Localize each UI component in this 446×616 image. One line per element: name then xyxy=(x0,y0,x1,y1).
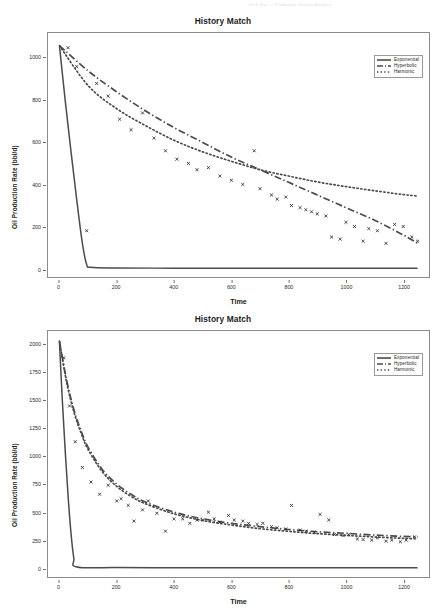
x-tick-label: 0 xyxy=(57,284,60,290)
y-tick-label: 1500 xyxy=(0,397,46,403)
y-tick-label: 1250 xyxy=(0,425,46,431)
x-tick-label: 600 xyxy=(227,284,236,290)
x-axis-label-2: Time xyxy=(47,597,430,606)
figure-1: History Match Oil Production Rate (bbl/d… xyxy=(0,14,446,310)
screenshot-page: Oil & Gas — Production Decline Analysis … xyxy=(0,0,446,616)
x-axis-label-1: Time xyxy=(47,297,430,306)
x-tick-label: 1000 xyxy=(341,284,353,290)
x-tick-label: 400 xyxy=(169,584,178,590)
axis-ticks-2: 0250500750100012501500175020000200400600… xyxy=(0,312,446,616)
y-tick-label: 0 xyxy=(0,566,46,572)
page-header-faint-text: Oil & Gas — Production Decline Analysis xyxy=(248,1,444,8)
y-tick-label: 1000 xyxy=(0,453,46,459)
x-tick-label: 600 xyxy=(227,584,236,590)
x-tick-label: 0 xyxy=(57,584,60,590)
y-tick-label: 1000 xyxy=(0,54,46,60)
x-tick-label: 200 xyxy=(112,284,121,290)
x-tick-label: 400 xyxy=(169,284,178,290)
x-tick-label: 800 xyxy=(284,584,293,590)
axis-ticks-1: 02004006008001000020040060080010001200 xyxy=(0,14,446,310)
y-tick-label: 200 xyxy=(0,224,46,230)
y-tick-label: 750 xyxy=(0,481,46,487)
y-tick-label: 0 xyxy=(0,267,46,273)
x-tick-label: 1000 xyxy=(341,584,353,590)
figure-2: History Match Oil Production Rate (bbl/d… xyxy=(0,312,446,616)
y-tick-label: 800 xyxy=(0,97,46,103)
x-tick-label: 800 xyxy=(284,284,293,290)
y-tick-label: 2000 xyxy=(0,341,46,347)
y-tick-label: 1750 xyxy=(0,369,46,375)
x-tick-label: 1200 xyxy=(398,584,410,590)
y-tick-label: 500 xyxy=(0,510,46,516)
y-tick-label: 250 xyxy=(0,538,46,544)
x-tick-label: 1200 xyxy=(398,284,410,290)
y-tick-label: 400 xyxy=(0,182,46,188)
y-tick-label: 600 xyxy=(0,139,46,145)
x-tick-label: 200 xyxy=(112,584,121,590)
